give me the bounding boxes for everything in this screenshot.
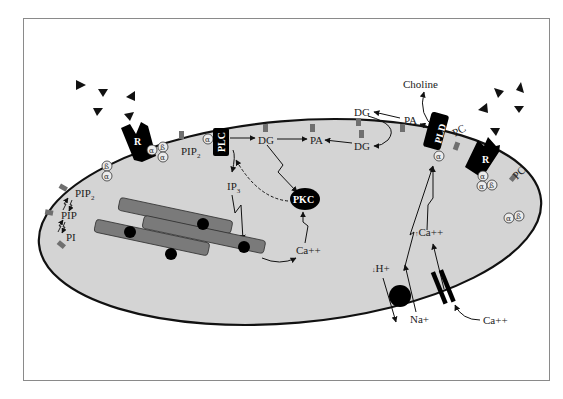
svg-text:α: α	[479, 182, 484, 191]
svg-text:ß: ß	[160, 143, 165, 152]
svg-text:α: α	[480, 172, 485, 181]
svg-text:ß: ß	[104, 162, 109, 171]
pa-top-label: PA	[404, 114, 417, 126]
signaling-diagram: R α ß α ß α PIP2 α PLC DG PA DG	[0, 0, 563, 399]
na-h-exchanger	[389, 285, 411, 307]
pa-mid-label: PA	[310, 134, 323, 146]
ligands-left	[76, 80, 135, 121]
receptor-right-label: R	[482, 154, 490, 165]
svg-text:α: α	[205, 135, 210, 144]
ca-out-label: Ca++	[483, 314, 508, 326]
h-plus-label: ↓H+	[372, 262, 390, 274]
pkc-enzyme: PKC	[290, 188, 320, 210]
dg-mid-label: DG	[354, 140, 370, 152]
na-plus-label: Na+	[410, 313, 429, 325]
receptor-left-label: R	[134, 136, 142, 147]
plc-label: PLC	[216, 132, 227, 152]
svg-text:α: α	[506, 214, 511, 223]
svg-text:α: α	[160, 153, 165, 162]
choline-label: Choline	[403, 78, 438, 90]
ca-er-label: Ca++	[296, 244, 321, 256]
svg-text:ß: ß	[489, 181, 494, 190]
ca-in-label: ↑Ca++	[415, 226, 443, 238]
svg-text:ß: ß	[516, 212, 521, 221]
dg-top-label: DG	[354, 106, 370, 118]
svg-text:α: α	[436, 152, 441, 161]
svg-text:α: α	[104, 172, 109, 181]
svg-text:α: α	[149, 146, 154, 155]
dg-plc-label: DG	[258, 134, 274, 146]
pkc-label: PKC	[293, 194, 314, 205]
ligands-right	[478, 82, 524, 136]
pi-left-label: PI	[66, 231, 76, 243]
